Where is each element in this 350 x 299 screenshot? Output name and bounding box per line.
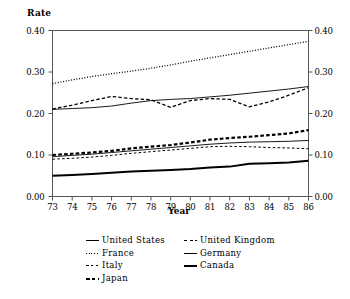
series-line-japan [53, 130, 309, 155]
x-tick-label: 81 [200, 202, 220, 212]
legend-item[interactable]: Italy [86, 259, 165, 272]
y-tick-label-left: 0.00 [15, 192, 45, 202]
x-tick-label: 82 [220, 202, 240, 212]
legend-line-swatch-icon [86, 249, 99, 257]
legend-item-label: United States [102, 234, 165, 247]
legend-item-label: France [102, 247, 134, 260]
y-tick-label-left: 0.10 [15, 150, 45, 160]
legend-item-label: Germany [200, 247, 241, 260]
legend-column-two: United KingdomGermanyCanada [184, 234, 275, 272]
y-tick-label-right: 0.20 [315, 109, 345, 119]
x-tick-label: 77 [121, 202, 141, 212]
legend-item[interactable]: United States [86, 234, 165, 247]
chart-page: Rate Year United StatesFranceItalyJapan … [0, 0, 350, 299]
legend-line-swatch-icon [184, 249, 197, 257]
legend-item-label: Italy [102, 259, 123, 272]
legend-line-swatch-icon [86, 236, 99, 244]
legend-item-label: Canada [200, 259, 234, 272]
legend-item[interactable]: Germany [184, 247, 275, 260]
x-tick-label: 86 [299, 202, 319, 212]
legend-item-label: Japan [102, 272, 128, 285]
x-tick-label: 78 [141, 202, 161, 212]
x-tick-label: 79 [161, 202, 181, 212]
y-tick-label-right: 0.10 [315, 150, 345, 160]
x-tick-label: 74 [62, 202, 82, 212]
y-tick-label-right: 0.30 [315, 67, 345, 77]
x-tick-label: 85 [279, 202, 299, 212]
legend-item[interactable]: France [86, 247, 165, 260]
series-line-france [53, 41, 309, 83]
y-tick-label-left: 0.20 [15, 109, 45, 119]
y-tick-label-left: 0.30 [15, 67, 45, 77]
x-tick-label: 84 [259, 202, 279, 212]
x-tick-label: 76 [102, 202, 122, 212]
series-line-canada [53, 161, 309, 176]
legend-column-one: United StatesFranceItalyJapan [86, 234, 165, 284]
x-tick-label: 73 [43, 202, 63, 212]
legend-item[interactable]: United Kingdom [184, 234, 275, 247]
y-tick-label-right: 0.40 [315, 26, 345, 36]
x-tick-label: 83 [239, 202, 259, 212]
legend-item[interactable]: Japan [86, 272, 165, 285]
legend-line-swatch-icon [184, 261, 197, 269]
y-tick-label-left: 0.40 [15, 26, 45, 36]
x-tick-label: 75 [82, 202, 102, 212]
series-line-italy [53, 146, 309, 159]
x-tick-label: 80 [180, 202, 200, 212]
line-chart-canvas [0, 0, 350, 299]
series-line-united-states [53, 87, 309, 110]
legend-item[interactable]: Canada [184, 259, 275, 272]
legend-line-swatch-icon [86, 274, 99, 282]
y-tick-label-right: 0.00 [315, 192, 345, 202]
legend-item-label: United Kingdom [200, 234, 275, 247]
legend-line-swatch-icon [86, 261, 99, 269]
legend-line-swatch-icon [184, 236, 197, 244]
